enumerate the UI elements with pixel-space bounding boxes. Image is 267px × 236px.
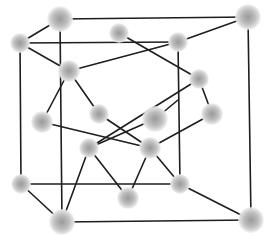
atoms	[10, 4, 264, 235]
atom-tet-upper-left	[58, 60, 80, 82]
atom-bottom-center	[117, 187, 139, 209]
cube-edge	[60, 17, 248, 19]
cube-edge	[178, 42, 180, 184]
atom-center-face	[142, 106, 168, 132]
cube-edge	[62, 220, 251, 222]
atom-front-bottom-left	[11, 174, 31, 194]
cube-edge	[60, 19, 62, 222]
atom-interior-lower-right	[139, 137, 161, 159]
cube-edge	[248, 17, 251, 220]
bond-line	[69, 42, 178, 71]
atom-back-top-left	[47, 6, 73, 32]
atom-right-upper	[189, 69, 209, 89]
atom-top-right-near	[168, 32, 188, 52]
crystal-structure-diagram	[0, 0, 267, 236]
atom-bottom-right-near	[170, 174, 190, 194]
atom-back-top-right	[235, 4, 261, 30]
atom-bottom-right-corner	[238, 207, 264, 233]
atom-right-lower	[201, 103, 223, 125]
atom-front-top-left	[10, 33, 30, 53]
atom-interior-lower-left	[79, 138, 99, 158]
cube-edge	[20, 43, 21, 184]
atom-interior-upper	[89, 104, 109, 124]
atom-top-face-center	[109, 23, 129, 43]
cube-edge	[20, 42, 178, 43]
diamond-cubic-lattice	[0, 0, 267, 236]
atom-left-face-center	[31, 111, 53, 133]
atom-bottom-front-corner	[49, 209, 75, 235]
